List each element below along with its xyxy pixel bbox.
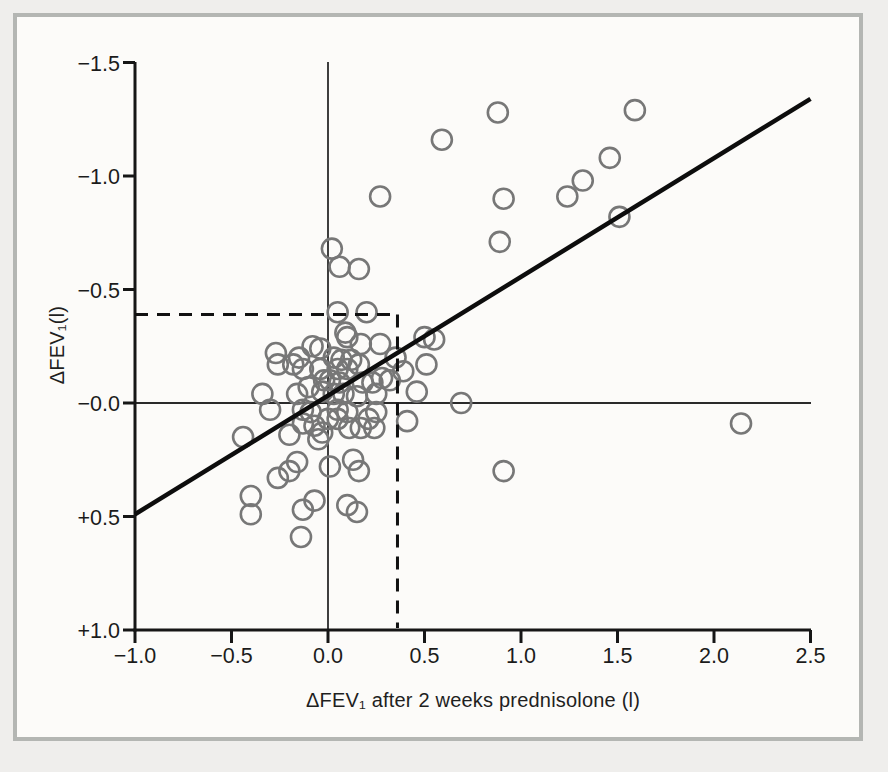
y-axis-tick-label: −0.0: [78, 392, 120, 416]
data-point: [625, 100, 645, 120]
x-axis-title: ΔFEV₁ after 2 weeks prednisolone (l): [306, 689, 640, 712]
data-point: [432, 130, 452, 150]
y-axis-tick-label: +1.0: [78, 619, 120, 643]
data-point: [488, 102, 508, 122]
data-point: [328, 302, 348, 322]
data-point: [416, 354, 436, 374]
data-point: [494, 189, 514, 209]
data-point: [494, 461, 514, 481]
data-point: [357, 302, 377, 322]
data-point: [279, 425, 299, 445]
data-point: [731, 413, 751, 433]
data-point: [268, 468, 288, 488]
x-axis-tick-label: 0.0: [313, 644, 343, 668]
x-axis-tick-label: 1.5: [603, 644, 633, 668]
y-axis-tick-label: −0.5: [78, 279, 120, 303]
regression-line: [135, 99, 811, 514]
data-point: [291, 527, 311, 547]
data-point: [573, 171, 593, 191]
data-point: [349, 461, 369, 481]
data-point: [349, 259, 369, 279]
y-axis-title: ΔFEV₁(l): [46, 306, 69, 384]
data-point: [557, 186, 577, 206]
data-point: [397, 411, 417, 431]
x-axis-tick-label: 2.5: [796, 644, 826, 668]
y-axis-tick-label: −1.5: [78, 52, 120, 76]
x-axis-tick-label: −1.0: [114, 644, 156, 668]
x-axis-tick-label: 0.5: [410, 644, 440, 668]
x-axis-tick-label: 1.0: [506, 644, 536, 668]
figure-page: −1.5−1.0−0.5−0.0+0.5+1.0−1.0−0.50.00.51.…: [0, 0, 888, 772]
x-axis-tick-label: 2.0: [699, 644, 729, 668]
data-point: [600, 148, 620, 168]
data-point: [407, 382, 427, 402]
y-axis-tick-label: −1.0: [78, 165, 120, 189]
data-point: [320, 457, 340, 477]
x-axis-tick-label: −0.5: [210, 644, 252, 668]
data-point: [343, 450, 363, 470]
data-point: [490, 232, 510, 252]
scatter-chart: −1.5−1.0−0.5−0.0+0.5+1.0−1.0−0.50.00.51.…: [0, 0, 888, 772]
y-axis-tick-label: +0.5: [78, 506, 120, 530]
data-point: [370, 186, 390, 206]
data-point: [330, 257, 350, 277]
